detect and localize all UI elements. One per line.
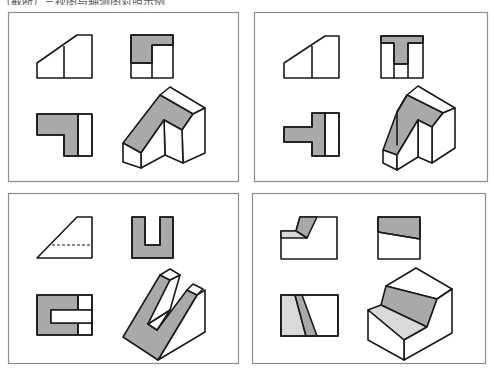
iso-inner-face xyxy=(418,120,432,163)
three-view-diagram-canvas xyxy=(0,0,494,368)
top-view-white xyxy=(78,114,92,156)
panel-2 xyxy=(255,13,488,182)
top-view-white-upper xyxy=(78,295,92,310)
top-view-white-lower xyxy=(78,323,92,335)
panel-3 xyxy=(9,194,239,364)
panel-border xyxy=(255,13,488,182)
top-view-slot xyxy=(51,310,92,323)
panel-4 xyxy=(253,194,486,364)
top-view-white xyxy=(325,113,339,156)
panel-1 xyxy=(9,13,239,182)
